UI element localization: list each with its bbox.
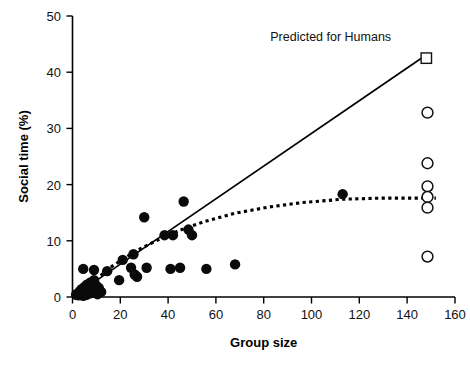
data-points-layer [71,107,433,301]
predicted-for-humans-label: Predicted for Humans [270,30,391,44]
y-tick-label: 20 [47,178,61,193]
x-tick-label: 160 [444,307,466,322]
filled-circle-point [114,275,124,285]
x-axis-title: Group size [230,335,297,350]
y-tick-label: 10 [47,234,61,249]
y-tick-label: 40 [47,65,61,80]
open-circle-point [422,181,433,192]
predicted-human-square-marker [421,53,431,63]
x-tick-label: 0 [69,307,76,322]
filled-circle-point [165,264,175,274]
y-tick-marks [67,16,73,297]
x-tick-labels: 0 20 40 60 80 100 120 140 160 [69,307,466,322]
filled-circle-point [89,265,99,275]
filled-circle-point [230,259,240,269]
x-tick-label: 40 [161,307,175,322]
open-circle-point [422,192,433,203]
filled-circle-point [139,212,149,222]
filled-circle-point [118,255,128,265]
filled-circle-point [337,189,347,199]
solid-regression-line [77,56,424,293]
open-circle-point [422,107,433,118]
filled-circle-point [102,266,112,276]
x-tick-label: 20 [113,307,127,322]
x-tick-label: 60 [209,307,223,322]
filled-circle-point [168,230,178,240]
filled-circle-point [128,249,138,259]
x-tick-label: 120 [348,307,370,322]
filled-circle-point [141,263,151,273]
annotations-layer: Predicted for Humans [270,30,431,63]
chart-figure: 50 40 30 20 10 0 0 20 40 60 80 100 120 1… [0,0,470,367]
filled-circle-point [187,230,197,240]
x-tick-label: 100 [301,307,323,322]
y-tick-labels: 50 40 30 20 10 0 [47,9,61,305]
y-tick-label: 30 [47,121,61,136]
x-tick-marks [73,297,456,304]
y-tick-label: 0 [54,290,61,305]
filled-circle-point [178,196,188,206]
filled-circle-point [175,263,185,273]
x-tick-label: 140 [396,307,418,322]
x-tick-label: 80 [256,307,270,322]
y-tick-label: 50 [47,9,61,24]
open-circle-point [422,158,433,169]
filled-circle-point [201,264,211,274]
y-axis-title: Social time (%) [16,110,31,202]
filled-circle-point [78,264,88,274]
filled-circle-point [132,272,142,282]
scatter-plot-canvas: 50 40 30 20 10 0 0 20 40 60 80 100 120 1… [0,0,470,367]
open-circle-point [422,251,433,262]
open-circle-point [422,202,433,213]
filled-circle-point [96,287,106,297]
